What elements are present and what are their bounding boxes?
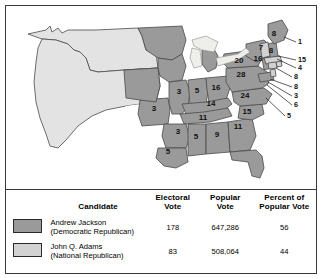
electoral-value-tennessee: 11 [199, 113, 208, 122]
electoral-value-mississippi: 5 [194, 132, 199, 141]
electoral-value-new-york: 16 [254, 54, 263, 63]
electoral-value-maryland: 3 [294, 91, 298, 100]
electoral-value-south-carolina-b: 5 [287, 111, 291, 120]
header-popular-vote-line2: Vote [217, 202, 234, 211]
candidate-cell: John Q. Adams(National Republican) [48, 239, 147, 263]
electoral-value-kentucky: 14 [207, 99, 216, 108]
candidate-party: (Democratic Republican) [50, 227, 145, 236]
electoral-value-north-carolina: 24 [241, 91, 250, 100]
leader-line-delaware [270, 79, 292, 87]
figure-frame: 3351614113559111524282016788115488365 Ca… [5, 5, 317, 274]
leader-line-new-jersey [276, 68, 292, 77]
electoral-value-missouri: 3 [152, 104, 157, 113]
electoral-value-south-carolina: 15 [243, 107, 252, 116]
header-electoral-vote-line1: Electoral [155, 193, 190, 202]
lake-michigan [190, 48, 202, 68]
legend-swatch-cell [6, 215, 48, 239]
electoral-value-ohio: 16 [212, 83, 221, 92]
table-row: John Q. Adams(National Republican)83508,… [6, 239, 316, 263]
header-percent-line1: Percent of [264, 193, 304, 202]
electoral-value-illinois: 3 [177, 87, 182, 96]
leader-line-massachusetts [284, 37, 296, 42]
electoral-vote-cell: 83 [148, 239, 198, 263]
candidate-name: John Q. Adams [50, 242, 145, 251]
table-body: Andrew Jackson(Democratic Republican)178… [6, 215, 316, 263]
electoral-value-maine: 8 [272, 29, 277, 38]
popular-vote-cell: 647,286 [198, 215, 253, 239]
header-row: Candidate Electoral Vote Popular Vote Pe… [6, 194, 316, 215]
table-panel: Candidate Electoral Vote Popular Vote Pe… [6, 190, 316, 274]
electoral-value-louisiana: 5 [166, 147, 171, 156]
election-map-figure: 3351614113559111524282016788115488365 Ca… [0, 0, 322, 279]
electoral-value-new-hampshire: 8 [269, 46, 274, 55]
electoral-value-connecticut: 4 [298, 63, 302, 72]
electoral-value-alabama: 9 [215, 130, 220, 139]
electoral-value-new-jersey: 8 [294, 72, 298, 81]
table-header: Candidate Electoral Vote Popular Vote Pe… [6, 194, 316, 215]
electoral-value-pennsylvania: 20 [235, 56, 244, 65]
electoral-value-vermont: 7 [259, 43, 264, 52]
electoral-value-delaware: 8 [294, 82, 298, 91]
candidate-cell: Andrew Jackson(Democratic Republican) [48, 215, 147, 239]
electoral-value-arkansas: 3 [176, 127, 181, 136]
electoral-value-georgia: 11 [234, 122, 243, 131]
header-candidate: Candidate [48, 194, 147, 215]
united-states-map: 3351614113559111524282016788115488365 [6, 6, 316, 189]
electoral-value-massachusetts: 1 [298, 37, 302, 46]
header-electoral-vote-line2: Vote [164, 202, 181, 211]
election-results-table: Candidate Electoral Vote Popular Vote Pe… [6, 194, 316, 263]
state-connecticut [268, 62, 277, 69]
electoral-value-virginia: 28 [237, 70, 246, 79]
percent-cell: 56 [253, 215, 316, 239]
electoral-value-maryland-b: 6 [294, 100, 298, 109]
color-swatch-jackson [13, 219, 42, 233]
leader-line-south-carolina-b [266, 98, 285, 116]
header-percent-line2: Popular Vote [259, 202, 309, 211]
mid-dark-territory [124, 68, 160, 102]
header-percent: Percent of Popular Vote [253, 194, 316, 215]
candidate-party: (National Republican) [50, 251, 145, 260]
color-swatch-adams [13, 243, 42, 257]
electoral-vote-cell: 178 [148, 215, 198, 239]
legend-swatch-cell [6, 239, 48, 263]
state-delaware [270, 69, 276, 77]
header-popular-vote: Popular Vote [198, 194, 253, 215]
map-panel: 3351614113559111524282016788115488365 [6, 6, 316, 189]
popular-vote-cell: 508,064 [198, 239, 253, 263]
state-florida [230, 150, 264, 178]
candidate-name: Andrew Jackson [50, 218, 145, 227]
table-row: Andrew Jackson(Democratic Republican)178… [6, 215, 316, 239]
percent-cell: 44 [253, 239, 316, 263]
state-louisiana [156, 148, 188, 168]
header-electoral-vote: Electoral Vote [148, 194, 198, 215]
header-swatch [6, 194, 48, 215]
electoral-value-indiana: 5 [195, 86, 200, 95]
header-popular-vote-line1: Popular [210, 193, 240, 202]
